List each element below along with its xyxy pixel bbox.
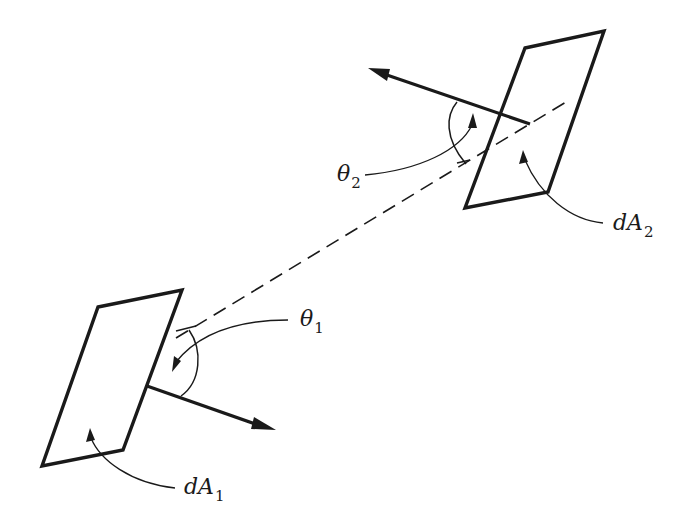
arrowhead-icon (251, 417, 276, 430)
arrowhead-icon (86, 428, 95, 442)
leader-dA1 (91, 438, 175, 488)
surface-dA1 (42, 290, 182, 466)
label-dA1: dA1 (184, 476, 225, 504)
theta1-symbol: θ (300, 306, 313, 331)
label-theta2: θ2 (337, 163, 361, 191)
angle-tick-theta1 (176, 326, 196, 331)
label-dA2: dA2 (613, 212, 654, 240)
surface-dA2 (465, 31, 604, 208)
dA1-subscript: 1 (215, 487, 225, 505)
theta2-subscript: 2 (351, 174, 361, 192)
arrowhead-icon (468, 113, 477, 128)
theta2-symbol: θ (337, 161, 350, 186)
angle-arc-theta2 (449, 102, 466, 164)
dA1-symbol: dA (184, 474, 214, 499)
normal-vector-dA2 (384, 74, 530, 124)
leader-dA2 (525, 160, 603, 223)
line-of-sight-dashed (176, 102, 566, 338)
arrowhead-icon (368, 68, 390, 81)
normal-vector-dA1 (147, 386, 258, 425)
dA2-symbol: dA (613, 210, 643, 235)
dA2-subscript: 2 (644, 223, 654, 241)
label-theta1: θ1 (300, 308, 324, 336)
theta1-subscript: 1 (314, 319, 324, 337)
angle-arc-theta1 (181, 330, 198, 396)
view-factor-diagram (0, 0, 682, 520)
arrowhead-icon (519, 150, 528, 164)
